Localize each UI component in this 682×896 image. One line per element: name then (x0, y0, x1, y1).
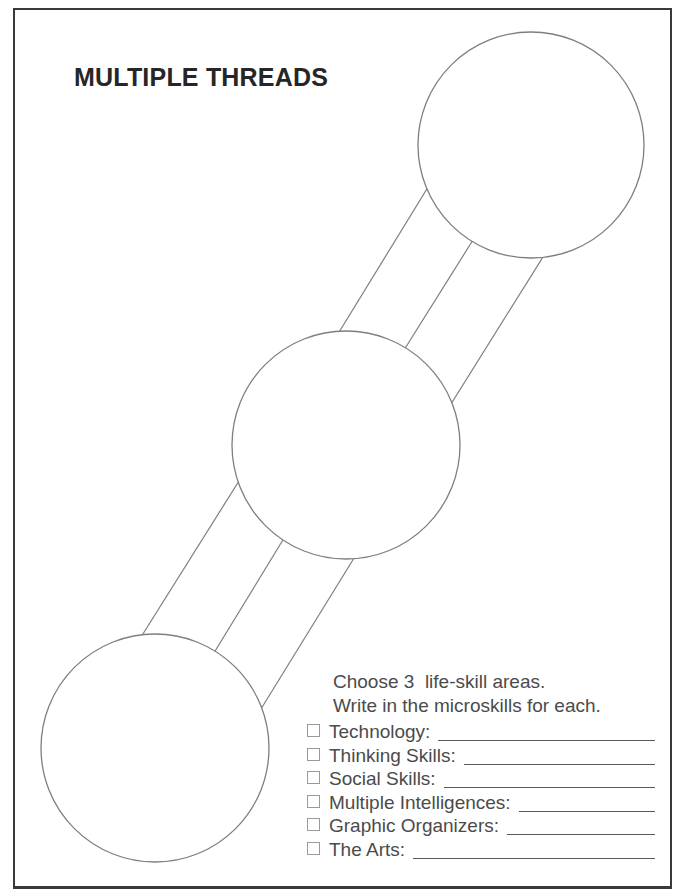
skill-circle-top-right[interactable] (418, 32, 644, 258)
checkbox-graphic-organizers[interactable] (307, 818, 320, 831)
thread-line (399, 232, 478, 358)
checklist-label-multiple-intelligences: Multiple Intelligences: (329, 791, 511, 815)
checkbox-thinking-skills[interactable] (307, 748, 320, 761)
checklist-label-graphic-organizers: Graphic Organizers: (329, 814, 499, 838)
checklist-label-technology: Technology: (329, 720, 430, 744)
instruction-line-2: Write in the microskills for each. (333, 694, 655, 718)
checkbox-social-skills[interactable] (307, 771, 320, 784)
checklist-row-the-arts: The Arts: (305, 838, 655, 862)
skill-circle-middle[interactable] (232, 331, 460, 559)
checklist: Technology: Thinking Skills: Social Skil… (305, 720, 655, 862)
write-in-line-graphic-organizers[interactable] (507, 814, 655, 835)
write-in-line-social-skills[interactable] (444, 767, 655, 788)
write-in-line-thinking-skills[interactable] (464, 744, 655, 765)
checklist-row-thinking-skills: Thinking Skills: (305, 744, 655, 768)
write-in-line-multiple-intelligences[interactable] (519, 791, 655, 812)
thread-line (333, 179, 433, 342)
checklist-row-technology: Technology: (305, 720, 655, 744)
checklist-row-graphic-organizers: Graphic Organizers: (305, 814, 655, 838)
worksheet-page: MULTIPLE THREADS Choose 3 life-skill are… (0, 0, 682, 896)
checkbox-the-arts[interactable] (307, 842, 320, 855)
page-title: MULTIPLE THREADS (74, 63, 328, 92)
checklist-label-thinking-skills: Thinking Skills: (329, 744, 456, 768)
checklist-row-social-skills: Social Skills: (305, 767, 655, 791)
checkbox-technology[interactable] (307, 724, 320, 737)
instruction-panel: Choose 3 life-skill areas. Write in the … (305, 670, 655, 862)
write-in-line-technology[interactable] (438, 720, 655, 741)
checklist-label-social-skills: Social Skills: (329, 767, 436, 791)
skill-circle-bottom-left[interactable] (41, 634, 269, 862)
write-in-line-the-arts[interactable] (413, 838, 655, 859)
thread-line (446, 249, 548, 412)
checklist-row-multiple-intelligences: Multiple Intelligences: (305, 791, 655, 815)
thread-line (136, 473, 244, 645)
checklist-label-the-arts: The Arts: (329, 838, 405, 862)
thread-line (209, 530, 289, 661)
instruction-line-1: Choose 3 life-skill areas. (333, 670, 655, 694)
checkbox-multiple-intelligences[interactable] (307, 795, 320, 808)
